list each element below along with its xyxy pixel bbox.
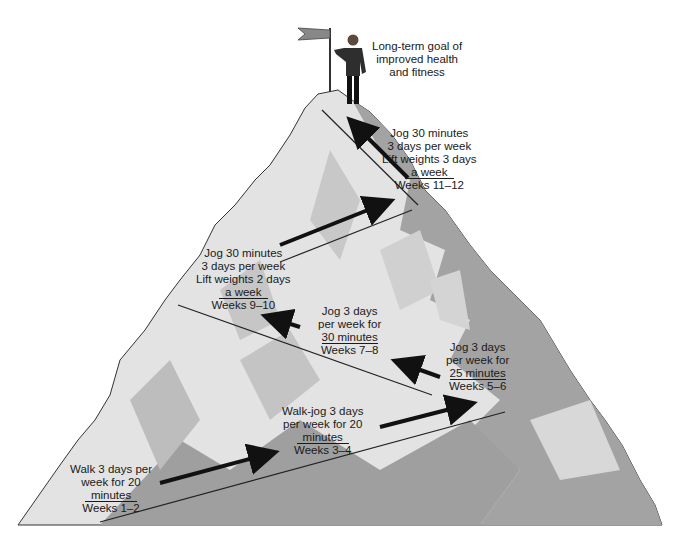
stage-weeks: Weeks 11–12	[382, 179, 477, 192]
stage-text: per week for 20	[282, 418, 363, 431]
stage-text: Jog 3 days	[318, 305, 381, 318]
stage-weeks-5-6: Jog 3 days per week for 25 minutes Weeks…	[446, 341, 509, 393]
stage-weeks-1-2: Walk 3 days per week for 20 minutes Week…	[70, 463, 152, 515]
stage-weeks-3-4: Walk-jog 3 days per week for 20 minutes …	[282, 405, 363, 457]
stage-frequency: a week	[405, 166, 453, 179]
stage-weeks-9-10: Jog 30 minutes 3 days per week Lift weig…	[196, 247, 291, 312]
stage-text: Lift weights 2 days	[196, 273, 291, 286]
stage-text: Walk 3 days per	[70, 463, 152, 476]
stage-text: week for 20	[70, 476, 152, 489]
stage-duration: minutes	[297, 431, 349, 444]
stage-duration: 30 minutes	[322, 331, 378, 344]
stage-frequency: a week	[219, 286, 267, 299]
summit-flag-icon	[298, 28, 330, 92]
stage-weeks-11-12: Jog 30 minutes 3 days per week Lift weig…	[382, 127, 477, 192]
stage-weeks: Weeks 3–4	[282, 444, 363, 457]
mountain-illustration	[0, 0, 676, 538]
stage-weeks: Weeks 1–2	[70, 502, 152, 515]
goal-line: Long-term goal of	[372, 40, 462, 53]
goal-line: improved health	[372, 53, 462, 66]
stage-weeks: Weeks 7–8	[318, 344, 381, 357]
goal-label: Long-term goal of improved health and fi…	[372, 40, 462, 79]
stage-text: per week for	[318, 318, 381, 331]
stage-duration: minutes	[85, 489, 137, 502]
stage-text: Walk-jog 3 days	[282, 405, 363, 418]
stage-text: Jog 30 minutes	[382, 127, 477, 140]
stage-text: per week for	[446, 354, 509, 367]
goal-line: and fitness	[372, 66, 462, 79]
stage-weeks: Weeks 5–6	[446, 380, 509, 393]
stage-weeks-7-8: Jog 3 days per week for 30 minutes Weeks…	[318, 305, 381, 357]
stage-text: Jog 30 minutes	[196, 247, 291, 260]
stage-text: Jog 3 days	[446, 341, 509, 354]
stage-weeks: Weeks 9–10	[196, 299, 291, 312]
stage-text: Lift weights 3 days	[382, 153, 477, 166]
stage-text: 3 days per week	[196, 260, 291, 273]
stage-text: 3 days per week	[382, 140, 477, 153]
stage-duration: 25 minutes	[450, 367, 506, 380]
